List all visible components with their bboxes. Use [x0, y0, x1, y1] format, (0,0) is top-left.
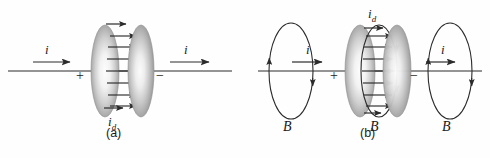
- panel-caption-a: (a): [106, 126, 121, 140]
- polarity-label-b-positive: +: [330, 68, 338, 84]
- panel-b: [258, 23, 482, 119]
- b-field-label-left: B: [283, 119, 292, 135]
- displacement-current-subscript-b: d: [372, 14, 377, 24]
- current-label-a-right: i: [184, 42, 188, 58]
- capacitor-plate-a-right: [128, 25, 154, 117]
- figure-root: i i + − id (a) i i + − id B B B (b): [0, 0, 490, 158]
- current-label-b-right: i: [441, 42, 445, 58]
- current-label-b-left: i: [306, 42, 310, 58]
- current-label-a-left: i: [45, 42, 49, 58]
- displacement-current-label-b: id: [368, 6, 376, 24]
- panel-caption-b: (b): [360, 126, 375, 140]
- panel-a: [8, 24, 232, 117]
- polarity-label-a-negative: −: [156, 68, 164, 84]
- polarity-label-a-positive: +: [76, 68, 84, 84]
- b-field-label-right: B: [442, 119, 451, 135]
- polarity-label-b-negative: −: [410, 68, 418, 84]
- capacitor-plate-b-right: [383, 25, 411, 117]
